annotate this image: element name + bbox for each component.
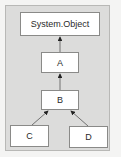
- node-c: C: [10, 125, 49, 147]
- arrow-d-to-b: [71, 111, 88, 126]
- node-system-object: System.Object: [20, 12, 100, 36]
- node-b: B: [41, 90, 79, 110]
- arrow-c-to-b: [32, 111, 48, 125]
- node-d: D: [69, 126, 108, 148]
- node-a: A: [41, 52, 79, 73]
